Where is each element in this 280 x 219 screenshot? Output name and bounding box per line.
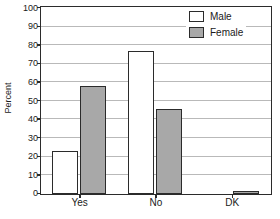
y-axis-tick-mark — [37, 81, 41, 82]
y-axis-tick-mark — [37, 193, 41, 194]
bar-male-yes — [52, 151, 78, 194]
y-axis-tick-label: 40 — [14, 115, 38, 124]
y-axis-tick-label: 100 — [14, 3, 38, 12]
gridline — [41, 44, 271, 45]
y-axis-tick-label: 50 — [14, 96, 38, 105]
x-axis-tick-labels: YesNoDK — [40, 197, 272, 215]
y-axis-tick-mark — [37, 174, 41, 175]
y-axis-tick-mark — [37, 7, 41, 8]
legend-item-female: Female — [189, 26, 243, 39]
y-axis-tick-label: 30 — [14, 133, 38, 142]
bar-female-dk — [233, 191, 259, 194]
bar-female-yes — [80, 86, 106, 194]
y-axis-tick-label: 70 — [14, 59, 38, 68]
gridline — [41, 100, 271, 101]
x-axis-tick-label-yes: Yes — [72, 197, 88, 209]
bar-male-no — [128, 51, 154, 194]
y-axis-tick-mark — [37, 44, 41, 45]
legend-label-female: Female — [210, 27, 243, 38]
bar-chart: Percent 0102030405060708090100 YesNoDK M… — [0, 0, 280, 219]
y-axis-tick-labels: 0102030405060708090100 — [14, 6, 38, 195]
y-axis-tick-mark — [37, 26, 41, 27]
y-axis-tick-label: 10 — [14, 170, 38, 179]
gridline — [41, 63, 271, 64]
x-axis-tick-label-dk: DK — [225, 197, 239, 209]
y-axis-tick-label: 80 — [14, 40, 38, 49]
legend: MaleFemale — [186, 8, 246, 41]
gridline — [41, 81, 271, 82]
y-axis-title-text: Percent — [3, 82, 13, 113]
y-axis-tick-label: 90 — [14, 22, 38, 31]
female-swatch-icon — [189, 27, 204, 38]
x-axis-tick-label-no: No — [150, 197, 163, 209]
y-axis-tick-mark — [37, 63, 41, 64]
legend-item-male: Male — [189, 10, 243, 23]
y-axis-tick-mark — [37, 156, 41, 157]
y-axis-tick-label: 20 — [14, 152, 38, 161]
y-axis-tick-label: 0 — [14, 189, 38, 198]
male-swatch-icon — [189, 11, 204, 22]
legend-label-male: Male — [210, 11, 232, 22]
y-axis-tick-mark — [37, 118, 41, 119]
bar-female-no — [156, 109, 182, 194]
y-axis-tick-label: 60 — [14, 77, 38, 86]
y-axis-tick-mark — [37, 137, 41, 138]
y-axis-tick-mark — [37, 100, 41, 101]
